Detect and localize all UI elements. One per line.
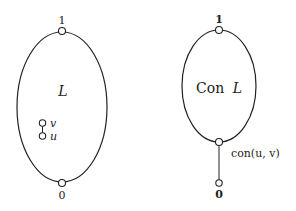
con-var: L [232,80,242,96]
lattice-con-l-top-node [216,27,223,34]
node-u-label: u [50,130,57,143]
con-prefix: Con [196,80,224,96]
lattice-l-top-node [59,28,66,35]
node-u [39,133,45,139]
lattice-l-top-label: 1 [59,14,66,27]
lattice-con-l: 1 Con L con(u, v) 0 [182,13,280,201]
lattice-l: 1 L v u 0 [17,14,107,202]
lattice-l-bottom-label: 0 [59,189,66,202]
lattice-con-l-top-label: 1 [215,13,223,26]
lattice-l-region-label: L [57,83,67,99]
con-uv-node [216,139,223,146]
lattice-con-l-region-label: Con L [196,80,242,96]
lattice-l-bottom-node [59,180,66,187]
lattice-con-l-bottom-label: 0 [215,188,223,201]
node-v [39,120,45,126]
con-uv-label: con(u, v) [231,147,280,160]
lattice-l-outline [17,32,107,182]
lattice-con-l-bottom-node [216,180,222,186]
node-v-label: v [50,117,57,130]
lattice-diagram: 1 L v u 0 1 Con L con(u, v) 0 [0,0,296,211]
